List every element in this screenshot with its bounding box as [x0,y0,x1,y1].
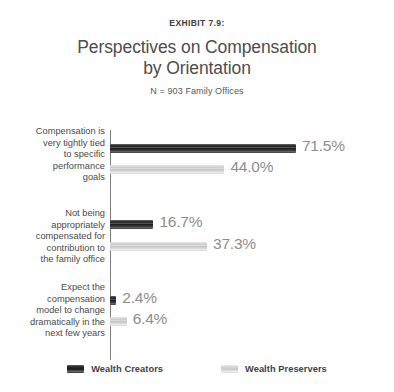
bar-value-label: 37.3% [213,235,256,253]
chart-subtitle: N = 903 Family Offices [0,86,394,96]
bar-creators[interactable] [110,144,296,153]
chart-title: Perspectives on Compensation by Orientat… [0,37,394,79]
category-label: Expect thecompensationmodel to changedra… [6,282,105,340]
exhibit-label: EXHIBIT 7.9: [0,18,394,28]
bar-value-label: 71.5% [302,137,345,155]
plot-area: Compensation isvery tightly tiedto speci… [0,118,394,360]
chart-header: EXHIBIT 7.9: Perspectives on Compensatio… [0,0,394,96]
bar-value-label: 44.0% [230,158,273,176]
bar-creators[interactable] [110,296,116,305]
legend-swatch-icon [67,365,84,373]
bar-value-label: 2.4% [122,289,157,307]
category-label: Not beingappropriatelycompensated forcon… [6,208,105,266]
chart-title-line-1: Perspectives on Compensation [0,37,394,58]
bar-group: Compensation isvery tightly tiedto speci… [0,126,394,204]
legend-label: Wealth Creators [91,364,163,374]
legend-label: Wealth Preservers [245,364,327,374]
legend-item-wealth-creators[interactable]: Wealth Creators [67,364,163,374]
bar-preservers[interactable] [110,165,224,174]
bar-group: Expect thecompensationmodel to changedra… [0,282,394,354]
bar-preservers[interactable] [110,242,207,251]
bar-value-label: 6.4% [133,310,168,328]
legend-swatch-icon [221,365,238,373]
chart-title-line-2: by Orientation [0,58,394,79]
category-label: Compensation isvery tightly tiedto speci… [6,126,105,184]
bar-preservers[interactable] [110,317,127,326]
bar-creators[interactable] [110,220,153,229]
bar-value-label: 16.7% [159,213,202,231]
legend-item-wealth-preservers[interactable]: Wealth Preservers [221,364,327,374]
bar-group: Not beingappropriatelycompensated forcon… [0,204,394,282]
chart-legend: Wealth Creators Wealth Preservers [0,364,394,374]
